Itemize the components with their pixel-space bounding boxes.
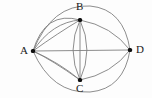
edge-c-d: [80, 50, 130, 80]
edge-a-d: [33, 50, 130, 51]
graph-figure: ABCD: [0, 0, 152, 98]
vertex-a: [31, 49, 35, 53]
vertex-b: [78, 18, 82, 22]
vertex-label-c: C: [76, 83, 83, 94]
vertex-d: [128, 48, 132, 52]
edge-b-c: [80, 20, 87, 80]
edge-b-d: [80, 20, 130, 50]
vertex-label-b: B: [76, 1, 83, 12]
vertex-label-d: D: [136, 44, 144, 55]
edge-b-c: [73, 20, 80, 80]
vertex-label-a: A: [20, 45, 28, 56]
edge-a-d: [33, 6, 130, 51]
